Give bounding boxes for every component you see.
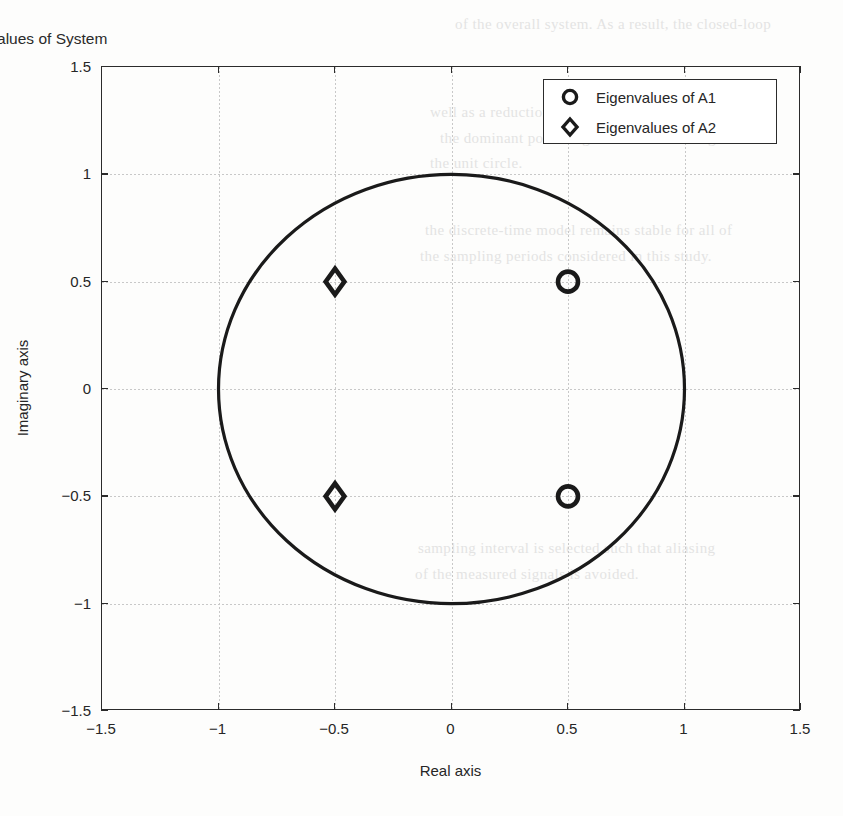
x-axis-label: Real axis [101,762,800,779]
marker-circle [558,486,578,506]
legend-entry-a2: Eigenvalues of A2 [544,112,776,142]
y-tick-mark [101,173,108,174]
chart-title: Eigenvalues of System [0,30,843,48]
unit-circle-curve [219,174,685,603]
y-tick-mark [793,495,800,496]
marker-diamond [326,483,345,509]
y-tick-mark [793,603,800,604]
plot-area [101,66,800,710]
chart-legend: Eigenvalues of A1 Eigenvalues of A2 [543,79,777,144]
legend-label-a1: Eigenvalues of A1 [596,89,716,106]
x-tick-label: −1.5 [86,720,116,737]
figure-page: of the overall system. As a result, the … [0,0,843,816]
x-tick-mark [334,66,335,73]
marker-circle [558,272,578,292]
x-tick-mark [218,66,219,73]
y-tick-label: 1.5 [23,58,91,75]
eigenvalue-plot-figure: Eigenvalues of System −1.5−1−0.500.511.5… [0,0,843,816]
y-tick-mark [793,173,800,174]
y-tick-label: −1.5 [23,702,91,719]
y-tick-label: −1 [23,594,91,611]
y-tick-mark [101,388,108,389]
y-tick-mark [101,66,108,67]
y-tick-mark [793,710,800,711]
unit-circle [219,174,685,603]
y-tick-mark [101,495,108,496]
series-layer [102,67,801,711]
x-tick-label: 1.5 [790,720,811,737]
legend-entry-a1: Eigenvalues of A1 [544,82,776,112]
y-tick-mark [101,281,108,282]
x-tick-mark [334,703,335,710]
x-tick-mark [684,66,685,73]
x-tick-mark [567,703,568,710]
marker-diamond [326,269,345,295]
x-tick-mark [800,66,801,73]
y-tick-mark [793,66,800,67]
y-tick-mark [101,710,108,711]
x-tick-label: −0.5 [319,720,349,737]
x-tick-mark [451,703,452,710]
legend-circle-icon [544,86,596,108]
legend-label-a2: Eigenvalues of A2 [596,119,716,136]
x-tick-mark [684,703,685,710]
y-tick-label: 1 [23,165,91,182]
x-tick-label: −1 [209,720,226,737]
y-axis-label: Imaginary axis [14,340,31,437]
x-tick-label: 0.5 [557,720,578,737]
y-tick-label: −0.5 [23,487,91,504]
data-markers [326,269,578,510]
x-tick-mark [451,66,452,73]
y-tick-mark [793,388,800,389]
legend-diamond-icon [544,116,596,138]
y-tick-label: 0 [23,380,91,397]
x-tick-mark [218,703,219,710]
y-tick-label: 0.5 [23,272,91,289]
y-tick-mark [793,281,800,282]
x-tick-label: 1 [679,720,687,737]
x-tick-mark [800,703,801,710]
chart-title-text: Eigenvalues of System [0,30,107,47]
x-tick-mark [101,703,102,710]
y-tick-mark [101,603,108,604]
x-tick-mark [567,66,568,73]
x-tick-label: 0 [446,720,454,737]
